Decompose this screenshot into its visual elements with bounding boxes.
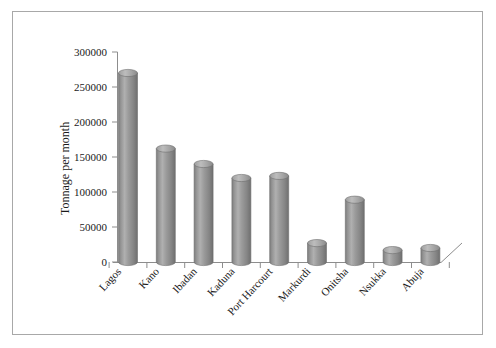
bar-top-cap bbox=[270, 172, 289, 179]
bar-body bbox=[345, 200, 364, 266]
x-category-label: Nsukka bbox=[356, 265, 388, 298]
bar-body bbox=[119, 73, 138, 266]
bar-top-cap bbox=[194, 160, 213, 167]
chart-figure: Tonnage per month 0500001000001500002000… bbox=[0, 0, 496, 348]
y-axis-title-text: Tonnage per month bbox=[58, 122, 72, 215]
bar-cylinder bbox=[421, 244, 440, 265]
y-axis-title: Tonnage per month bbox=[58, 122, 72, 215]
x-category-label: Abuja bbox=[399, 265, 426, 293]
x-category-label: Markurdi bbox=[275, 265, 312, 304]
bar-cylinder bbox=[119, 69, 138, 265]
bar-body bbox=[194, 164, 213, 266]
bar-cylinder bbox=[383, 247, 402, 266]
x-category-label: Ibadan bbox=[170, 265, 200, 295]
bar-cylinder bbox=[308, 240, 327, 266]
bar-chart-plot: Tonnage per month 0500001000001500002000… bbox=[0, 0, 496, 348]
x-axis-category-labels: LagosKanoIbadanKadunaPort HarcourtMarkur… bbox=[96, 265, 426, 318]
x-category-label: Kano bbox=[136, 265, 161, 291]
y-tick-label: 250000 bbox=[74, 81, 108, 93]
bar-body bbox=[270, 176, 289, 266]
bar-body bbox=[232, 178, 251, 266]
y-tick-label: 150000 bbox=[74, 151, 108, 163]
y-tick-label: 300000 bbox=[74, 46, 108, 58]
bar-series bbox=[119, 69, 440, 265]
bar-top-cap bbox=[421, 244, 440, 251]
bar-cylinder bbox=[194, 160, 213, 265]
bar-body bbox=[156, 149, 175, 266]
y-tick-label: 0 bbox=[102, 256, 108, 268]
bar-top-cap bbox=[345, 196, 364, 203]
y-tick-label: 200000 bbox=[74, 116, 108, 128]
bar-cylinder bbox=[345, 196, 364, 266]
bar-cylinder bbox=[232, 174, 251, 265]
x-category-label: Onitsha bbox=[318, 265, 350, 298]
x-category-label: Kaduna bbox=[205, 265, 237, 298]
bar-top-cap bbox=[308, 240, 327, 247]
bar-cylinder bbox=[156, 145, 175, 266]
bar-top-cap bbox=[383, 247, 402, 254]
depth-axis-line bbox=[441, 243, 462, 263]
bar-top-cap bbox=[119, 69, 138, 76]
bar-top-cap bbox=[156, 145, 175, 152]
bar-top-cap bbox=[232, 174, 251, 181]
bar-cylinder bbox=[270, 172, 289, 265]
y-tick-label: 100000 bbox=[74, 186, 108, 198]
x-category-label: Lagos bbox=[96, 265, 123, 293]
y-tick-label: 50000 bbox=[80, 221, 108, 233]
y-axis-ticks: 050000100000150000200000250000300000 bbox=[74, 46, 118, 268]
